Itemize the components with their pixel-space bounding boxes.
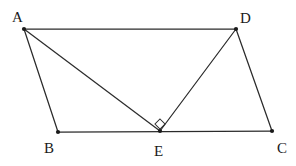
vertex-label-e: E	[154, 143, 163, 159]
vertex-label-group: A B C D E	[12, 9, 287, 159]
segment-dc	[236, 29, 272, 131]
segment-ab	[24, 29, 58, 132]
geometry-figure: A B C D E	[0, 0, 296, 166]
vertex-label-b: B	[44, 140, 54, 156]
vertex-group	[22, 27, 274, 134]
vertex-label-d: D	[240, 10, 251, 26]
right-angle-marker-e	[155, 119, 165, 129]
vertex-point-e	[158, 129, 162, 133]
segment-bc	[58, 131, 272, 132]
segment-group	[24, 29, 272, 132]
angle-marker-group	[155, 119, 165, 129]
vertex-point-c	[270, 129, 274, 133]
vertex-label-a: A	[12, 9, 23, 25]
vertex-point-b	[56, 130, 60, 134]
vertex-point-a	[22, 27, 26, 31]
segment-ae	[24, 29, 160, 131]
figure-canvas: A B C D E	[0, 0, 296, 166]
vertex-label-c: C	[277, 140, 287, 156]
segment-de	[160, 29, 236, 131]
vertex-point-d	[234, 27, 238, 31]
